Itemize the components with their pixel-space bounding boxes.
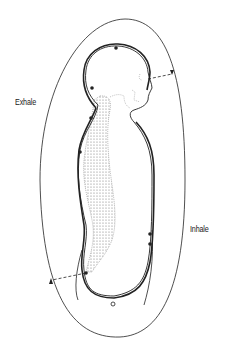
back-leg-line xyxy=(76,250,82,300)
exhale-label: Exhale xyxy=(15,97,36,107)
channel-node xyxy=(90,86,94,90)
base-dashed-line xyxy=(52,273,86,280)
face-detail xyxy=(132,74,142,102)
arrow-up-icon xyxy=(49,278,53,284)
arrow-down-icon xyxy=(170,70,174,75)
channel-node xyxy=(89,116,93,120)
diagram-canvas xyxy=(0,0,225,349)
jaw-detail xyxy=(110,95,130,108)
spine-vertebrae xyxy=(84,96,115,272)
inhale-label: Inhale xyxy=(190,224,209,234)
channel-node xyxy=(148,242,152,246)
channel-node-open xyxy=(111,302,115,306)
channel-node xyxy=(114,46,118,50)
channel-node xyxy=(78,150,82,154)
channel-node xyxy=(148,232,152,236)
energy-channel-line xyxy=(83,44,150,108)
breath-circulation-diagram: Exhale Inhale xyxy=(0,0,225,349)
head-dashed-line xyxy=(148,74,172,79)
outer-breath-loop xyxy=(40,19,185,337)
